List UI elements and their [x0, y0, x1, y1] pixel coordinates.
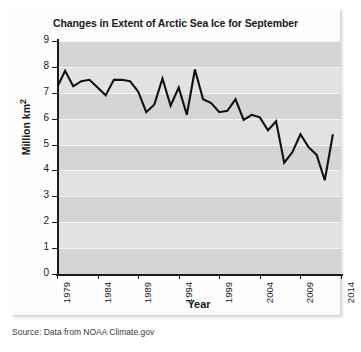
x-tick [138, 274, 139, 279]
sea-ice-extent-line [57, 41, 341, 274]
x-tick [219, 274, 220, 279]
y-tick-label: 3 [21, 189, 49, 200]
y-tick [52, 196, 57, 197]
y-axis-line [57, 39, 59, 276]
source-note: Source: Data from NOAA Climate.gov [12, 327, 154, 337]
y-tick [52, 248, 57, 249]
x-tick [260, 274, 261, 279]
x-tick [341, 274, 342, 279]
y-axis-title: Million km2 [18, 87, 33, 167]
y-axis-title-text: Million km [20, 104, 32, 155]
y-tick-label: 9 [21, 34, 49, 45]
y-tick-label: 2 [21, 215, 49, 226]
y-tick [52, 41, 57, 42]
x-tick [300, 274, 301, 279]
x-tick [179, 274, 180, 279]
y-tick [52, 93, 57, 94]
y-tick [52, 119, 57, 120]
y-tick-label: 0 [21, 267, 49, 278]
screenshot-root: Changes in Extent of Arctic Sea Ice for … [0, 0, 361, 352]
chart-card: Changes in Extent of Arctic Sea Ice for … [11, 8, 340, 315]
y-tick [52, 145, 57, 146]
y-tick-label: 1 [21, 241, 49, 252]
x-tick [57, 274, 58, 279]
x-axis-title: Year [57, 298, 341, 310]
x-tick-label: 2014 [345, 282, 356, 303]
y-axis-title-exponent: 2 [18, 99, 28, 104]
y-tick [52, 67, 57, 68]
y-tick-label: 8 [21, 60, 49, 71]
y-tick [52, 222, 57, 223]
series-polyline [57, 69, 333, 180]
plot-area [57, 41, 341, 274]
y-tick [52, 170, 57, 171]
x-tick [98, 274, 99, 279]
chart-title: Changes in Extent of Arctic Sea Ice for … [11, 17, 340, 29]
